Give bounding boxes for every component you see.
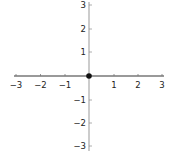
y-tick-label: 3 [81,0,86,10]
y-tick-label: −1 [73,95,86,105]
y-tick-label: −3 [73,141,86,151]
y-tick-label: 2 [81,24,86,34]
x-tick-label: −3 [10,80,23,90]
x-tick-label: 3 [159,80,164,90]
x-tick-label: 2 [135,80,140,90]
x-tick-label: −2 [34,80,47,90]
y-tick-label: 1 [81,47,86,57]
x-tick-labels: −3 −2 −1 1 2 3 [10,80,165,90]
y-tick-label: −2 [73,118,86,128]
data-point-origin [86,73,92,79]
x-tick-label: −1 [59,80,72,90]
coordinate-plane: −3 −2 −1 1 2 3 3 2 1 −1 −2 −3 [0,0,176,157]
x-tick-label: 1 [111,80,116,90]
